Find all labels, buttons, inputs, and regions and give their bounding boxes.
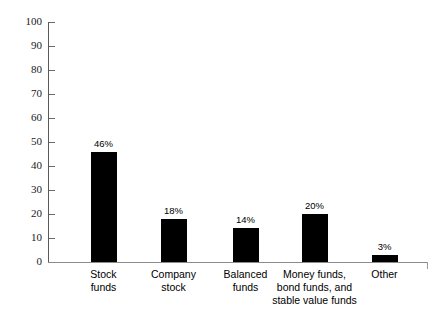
bar-value-label: 20% [290,201,340,211]
bar [372,255,398,262]
bar-value-label: 18% [149,206,199,216]
y-tick-mark [49,46,55,47]
bar-value-label: 3% [360,242,410,252]
y-tick-label: 10 [14,232,42,243]
y-tick-label: 20 [14,208,42,219]
y-tick-label-text: 0 [16,256,42,267]
y-tick-label-text: 30 [16,184,42,195]
bar [233,228,259,262]
y-tick-label-text: 40 [16,160,42,171]
y-tick-label: 50 [14,136,42,147]
bar [91,152,117,262]
y-tick-label: 60 [14,112,42,123]
bar-chart: 0102030405060708090100 46%Stock funds18%… [0,0,448,314]
y-tick-mark [49,142,55,143]
y-tick-label-text: 80 [16,64,42,75]
y-tick-label-text: 50 [16,136,42,147]
bar-value-label: 14% [221,215,271,225]
bar-category-label: Other [340,268,430,281]
bar [161,219,187,262]
y-tick-label-text: 100 [16,16,42,27]
y-tick-label: 40 [14,160,42,171]
y-tick-label: 70 [14,88,42,99]
bar [302,214,328,262]
y-tick-label-text: 60 [16,112,42,123]
y-tick-label-text: 20 [16,208,42,219]
y-tick-label-text: 10 [16,232,42,243]
y-tick-label-text: 90 [16,40,42,51]
x-axis-line [48,262,428,263]
y-tick-mark [49,166,55,167]
plot-area: 0102030405060708090100 46%Stock funds18%… [0,0,448,314]
y-tick-label: 80 [14,64,42,75]
y-tick-label: 100 [14,16,42,27]
y-tick-mark [49,238,55,239]
y-tick-mark [49,94,55,95]
y-tick-mark [49,22,55,23]
bar-value-label: 46% [79,139,129,149]
y-tick-label: 90 [14,40,42,51]
y-tick-label: 30 [14,184,42,195]
y-tick-mark [49,70,55,71]
x-axis-end-tick [427,262,428,269]
y-tick-mark [49,214,55,215]
y-tick-mark [49,190,55,191]
y-tick-label-text: 70 [16,88,42,99]
y-tick-mark [49,118,55,119]
y-tick-label: 0 [14,256,42,267]
